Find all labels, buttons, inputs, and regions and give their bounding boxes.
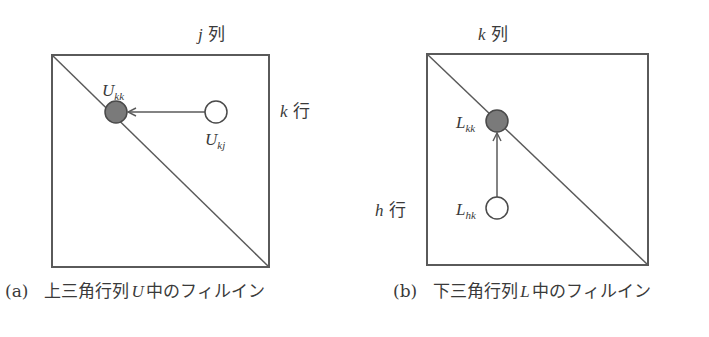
open-node-ukj xyxy=(205,101,227,123)
caption-b: (b)下三角行列L中のフィルイン xyxy=(393,283,651,300)
column-text-a: 列 xyxy=(208,24,225,44)
caption-var: L xyxy=(520,282,529,301)
caption-number: (b) xyxy=(393,281,417,301)
caption-text: 中のフィルイン xyxy=(532,281,651,301)
node-base: U xyxy=(205,130,217,149)
caption-a: (a)上三角行列U中のフィルイン xyxy=(5,283,265,300)
column-var-b: k xyxy=(478,25,486,44)
node-label-lkk: Lkk xyxy=(456,114,475,134)
caption-text: 中のフィルイン xyxy=(146,281,265,301)
node-sub: kj xyxy=(217,139,225,151)
matrix-a-diagonal xyxy=(52,55,269,267)
column-label-a: j 列 xyxy=(198,26,225,43)
row-label-b: h 行 xyxy=(375,202,406,219)
node-label-ukj: Ukj xyxy=(205,131,225,151)
caption-text: 下三角行列 xyxy=(433,281,518,301)
row-text-b: 行 xyxy=(389,200,406,220)
column-label-b: k 列 xyxy=(478,26,508,43)
panel-b-matrix xyxy=(427,54,648,265)
caption-text: 上三角行列 xyxy=(44,281,129,301)
node-label-lhk: Lhk xyxy=(456,201,476,221)
caption-number: (a) xyxy=(5,281,28,301)
row-var-b: h xyxy=(375,201,384,220)
filled-node-lkk xyxy=(486,110,508,132)
node-sub: kk xyxy=(465,122,475,134)
node-base: U xyxy=(102,81,114,100)
row-text-a: 行 xyxy=(293,101,310,121)
node-sub: hk xyxy=(465,209,475,221)
node-label-ukk: Ukk xyxy=(102,82,124,102)
caption-var: U xyxy=(131,282,143,301)
row-label-a: k 行 xyxy=(280,103,310,120)
column-text-b: 列 xyxy=(491,24,508,44)
matrix-b-diagonal xyxy=(427,54,648,265)
panel-a-matrix xyxy=(52,55,269,267)
filled-node-ukk xyxy=(105,101,127,123)
node-sub: kk xyxy=(114,90,124,102)
column-var-a: j xyxy=(198,25,203,44)
open-node-lhk xyxy=(486,197,508,219)
row-var-a: k xyxy=(280,102,288,121)
